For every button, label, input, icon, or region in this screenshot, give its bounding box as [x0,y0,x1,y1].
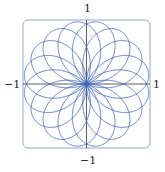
tick-label-right: 1 [153,79,160,90]
tick-label-top: 1 [84,3,91,14]
tick-label-left: −1 [4,79,20,90]
tick-label-bottom: −1 [80,155,96,166]
polar-rose-plot [0,0,165,172]
